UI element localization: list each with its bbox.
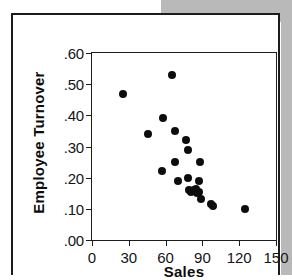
y-axis-tick [86,147,92,148]
y-axis-tick-label: .30 [64,138,84,155]
y-axis-tick-label: .20 [64,169,84,186]
scatter-point [159,114,167,122]
scatter-point [171,158,179,166]
x-axis-tick [166,240,167,246]
y-axis-tick-label: .60 [64,45,84,62]
scatter-point [195,177,203,185]
x-axis-tick [276,240,277,246]
scatter-point [196,158,204,166]
y-axis-tick-label: .40 [64,107,84,124]
x-axis-tick [92,240,93,246]
y-axis-title: Employee Turnover [29,52,59,241]
x-axis-tick [239,240,240,246]
scatter-point [174,177,182,185]
y-axis-tick [86,115,92,116]
y-axis-tick-label: .00 [64,232,84,249]
x-axis-tick [129,240,130,246]
scatter-point [184,146,192,154]
scatter-point [171,127,179,135]
scatter-point [119,90,127,98]
y-axis-tick [86,53,92,54]
x-axis-title: Sales [91,263,277,280]
y-axis-title-label: Employee Turnover [30,71,47,213]
y-axis-tick [86,178,92,179]
scatter-point [209,202,217,210]
scatter-point [241,205,249,213]
scatter-point [168,71,176,79]
plot-area: .00.10.20.30.40.50.600306090120150 [91,52,277,241]
scatter-point [197,195,205,203]
scatter-point [184,174,192,182]
page-shadow-right [281,0,292,275]
y-axis-tick-label: .50 [64,76,84,93]
y-axis-tick [86,84,92,85]
scatter-point [158,167,166,175]
scatter-point [182,136,190,144]
figure-card: Employee Turnover .00.10.20.30.40.50.600… [11,13,280,275]
y-axis-tick-label: .10 [64,200,84,217]
y-axis-tick [86,209,92,210]
scatter-point [144,130,152,138]
x-axis-tick [202,240,203,246]
